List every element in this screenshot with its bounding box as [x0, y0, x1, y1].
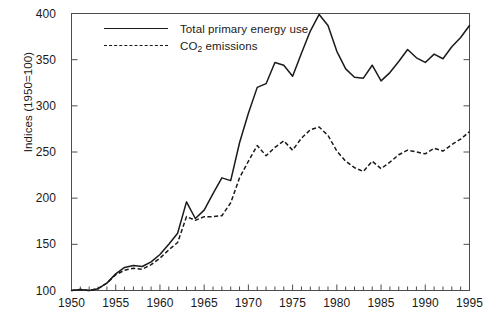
- legend-swatch-dashed-icon: [104, 40, 168, 52]
- chart-legend: Total primary energy use CO2 emissions: [104, 20, 308, 54]
- legend-item-total-primary-energy-use: Total primary energy use: [104, 20, 308, 37]
- chart-figure: Indices (1950=100) 400350300250200150100…: [0, 0, 493, 323]
- legend-label-co2-emissions: CO2 emissions: [180, 40, 258, 52]
- legend-label-total-primary-energy-use: Total primary energy use: [180, 23, 308, 35]
- legend-item-co2-emissions: CO2 emissions: [104, 37, 308, 54]
- legend-swatch-solid-icon: [104, 23, 168, 35]
